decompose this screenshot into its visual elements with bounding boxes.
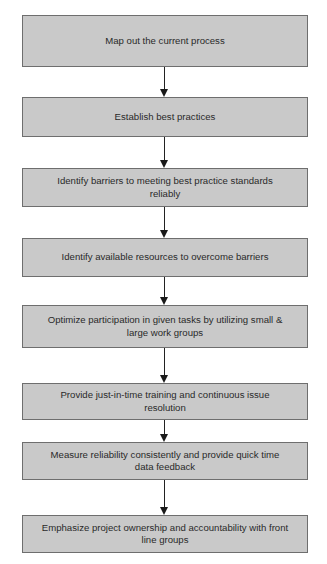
flow-step-map-current-process: Map out the current process bbox=[22, 15, 308, 67]
arrow-down-icon bbox=[160, 375, 168, 383]
flow-step-label: Emphasize project ownership and accounta… bbox=[41, 522, 289, 547]
flow-step-label: Optimize participation in given tasks by… bbox=[41, 314, 289, 339]
flow-step-label: Provide just-in-time training and contin… bbox=[41, 389, 289, 414]
connector-line bbox=[164, 207, 165, 230]
arrow-down-icon bbox=[160, 230, 168, 238]
flow-step-label: Measure reliability consistently and pro… bbox=[41, 449, 289, 474]
arrow-down-icon bbox=[160, 507, 168, 515]
arrow-down-icon bbox=[160, 89, 168, 97]
connector-line bbox=[164, 420, 165, 434]
flow-step-establish-best-practices: Establish best practices bbox=[22, 97, 308, 137]
connector-line bbox=[164, 137, 165, 160]
connector-line bbox=[164, 480, 165, 507]
flow-step-optimize-participation: Optimize participation in given tasks by… bbox=[22, 305, 308, 348]
flow-step-emphasize-ownership: Emphasize project ownership and accounta… bbox=[22, 515, 308, 553]
arrow-down-icon bbox=[160, 160, 168, 168]
connector-line bbox=[164, 348, 165, 375]
flow-step-identify-barriers: Identify barriers to meeting best practi… bbox=[22, 168, 308, 207]
flow-step-label: Identify barriers to meeting best practi… bbox=[41, 175, 289, 200]
arrow-down-icon bbox=[160, 434, 168, 442]
connector-line bbox=[164, 277, 165, 297]
flow-step-identify-resources: Identify available resources to overcome… bbox=[22, 238, 308, 277]
flow-step-label: Establish best practices bbox=[115, 111, 216, 124]
flow-step-provide-training: Provide just-in-time training and contin… bbox=[22, 383, 308, 420]
flow-step-measure-reliability: Measure reliability consistently and pro… bbox=[22, 442, 308, 480]
flow-step-label: Map out the current process bbox=[105, 35, 224, 48]
arrow-down-icon bbox=[160, 297, 168, 305]
connector-line bbox=[164, 67, 165, 89]
flow-step-label: Identify available resources to overcome… bbox=[62, 251, 269, 264]
